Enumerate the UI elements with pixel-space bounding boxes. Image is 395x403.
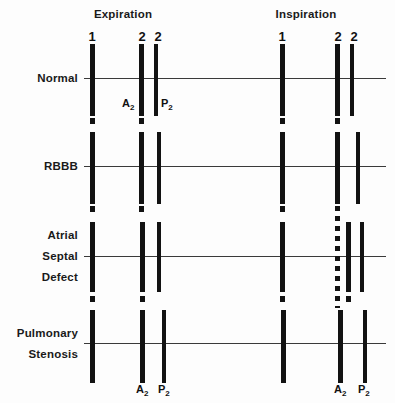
row-label-pulmonary-stenosis: Stenosis — [28, 348, 78, 360]
sound-bar-normal-expiration-A2 — [139, 44, 144, 116]
sound-bar-normal-inspiration-S1 — [280, 44, 285, 116]
sound-bar-atrial-septal-defect-inspiration-A2 — [335, 206, 340, 308]
bar-stub-5 — [139, 206, 144, 212]
sound-numeral-inspiration-A2: 2 — [334, 30, 341, 43]
row-label-rbbb: RBBB — [44, 160, 78, 172]
phase-label-inspiration: Inspiration — [276, 8, 337, 20]
sound-bar-rbbb-inspiration-A2 — [335, 132, 340, 204]
baseline-atrial-septal-defect — [84, 256, 386, 257]
sound-numeral-expiration-S1: 1 — [88, 30, 95, 43]
component-label-normal-expiration-A2: A2 — [122, 98, 134, 112]
sound-bar-pulmonary-stenosis-expiration-A2 — [140, 310, 145, 378]
sound-bar-rbbb-expiration-A2 — [139, 132, 144, 204]
sound-numeral-expiration-P2: 2 — [154, 30, 161, 43]
bar-stub-16 — [363, 378, 368, 383]
bar-stub-3 — [335, 118, 340, 124]
baseline-rbbb — [84, 166, 386, 167]
row-label-atrial-septal-defect: Atrial — [47, 229, 78, 241]
sound-bar-atrial-septal-defect-inspiration-A2-solid — [346, 222, 351, 292]
heart-sound-splitting-diagram: ExpirationInspiration122122NormalA2P2RBB… — [0, 0, 395, 403]
sound-bar-normal-inspiration-A2 — [335, 44, 340, 116]
sound-numeral-inspiration-S1: 1 — [278, 30, 285, 43]
sound-bar-pulmonary-stenosis-expiration-S1 — [90, 310, 95, 378]
sound-bar-atrial-septal-defect-expiration-A2 — [140, 222, 145, 292]
sound-bar-atrial-septal-defect-expiration-S1 — [90, 222, 95, 292]
sound-bar-rbbb-inspiration-P2 — [356, 132, 361, 204]
component-label-pulmonary-stenosis-inspiration-P2: P2 — [358, 384, 370, 398]
row-label-normal: Normal — [37, 72, 78, 84]
row-label-pulmonary-stenosis: Pulmonary — [17, 327, 78, 339]
sound-bar-normal-inspiration-P2 — [350, 44, 355, 116]
sound-bar-atrial-septal-defect-inspiration-P2 — [360, 222, 365, 292]
sound-numeral-inspiration-P2: 2 — [350, 30, 357, 43]
sound-bar-pulmonary-stenosis-expiration-P2 — [162, 310, 167, 378]
bar-stub-15 — [338, 378, 343, 383]
sound-bar-rbbb-inspiration-S1 — [280, 132, 285, 204]
bar-stub-6 — [280, 206, 285, 212]
phase-label-expiration: Expiration — [94, 8, 152, 20]
bar-stub-1 — [139, 118, 144, 124]
sound-bar-rbbb-expiration-P2 — [157, 132, 162, 204]
component-label-pulmonary-stenosis-expiration-A2: A2 — [136, 384, 148, 398]
component-label-normal-expiration-P2: P2 — [161, 98, 173, 112]
sound-bar-pulmonary-stenosis-inspiration-S1 — [281, 310, 286, 378]
sound-bar-atrial-septal-defect-expiration-P2 — [157, 222, 162, 292]
sound-bar-normal-expiration-S1 — [90, 44, 95, 116]
bar-stub-14 — [281, 378, 286, 383]
bar-stub-10 — [346, 296, 351, 302]
bar-stub-11 — [90, 378, 95, 383]
bar-stub-0 — [90, 118, 95, 124]
component-label-pulmonary-stenosis-inspiration-A2: A2 — [334, 384, 346, 398]
bar-stub-12 — [140, 378, 145, 383]
bar-stub-13 — [162, 378, 167, 383]
row-label-atrial-septal-defect: Defect — [42, 271, 78, 283]
bar-stub-8 — [140, 296, 145, 302]
bar-stub-4 — [90, 206, 95, 212]
sound-bar-normal-expiration-P2 — [154, 44, 159, 116]
sound-numeral-expiration-A2: 2 — [138, 30, 145, 43]
bar-stub-7 — [90, 296, 95, 302]
baseline-normal — [84, 78, 386, 79]
sound-bar-rbbb-expiration-S1 — [90, 132, 95, 204]
sound-bar-pulmonary-stenosis-inspiration-A2 — [338, 310, 343, 378]
row-label-atrial-septal-defect: Septal — [42, 250, 78, 262]
sound-bar-atrial-septal-defect-inspiration-S1 — [280, 222, 285, 292]
component-label-pulmonary-stenosis-expiration-P2: P2 — [158, 384, 170, 398]
sound-bar-pulmonary-stenosis-inspiration-P2 — [363, 310, 368, 378]
bar-stub-2 — [280, 118, 285, 124]
bar-stub-9 — [280, 296, 285, 302]
